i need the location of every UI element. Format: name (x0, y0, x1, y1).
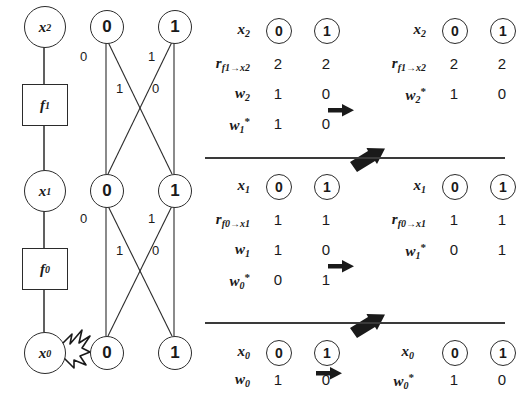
table-x1-left-cell-2-0: 0 (265, 272, 291, 287)
hdr-txt: x (414, 177, 422, 193)
up-left-arrow-icon-lower (350, 314, 385, 338)
trellis-node-bottom-0-label: 0 (102, 343, 111, 363)
row-txt: w (405, 243, 415, 259)
row-txt: w (229, 273, 239, 289)
table-x2-left-cell-1-1: 0 (313, 86, 339, 101)
table-x2-left-cell-0-0: 2 (265, 56, 291, 71)
hdr-txt: x (238, 343, 246, 359)
table-x2-left-col-header-1[interactable]: 1 (314, 18, 340, 44)
table-x1-left-cell-1-1: 0 (313, 242, 339, 257)
table-x1-right-row-1-label: w1* (354, 242, 426, 261)
factor-node-f0-sub: 0 (45, 264, 50, 275)
table-x2-right-cell-1-0: 1 (441, 86, 467, 101)
table-x0-left-col-header-1[interactable]: 1 (314, 340, 340, 366)
right-arrow-icon-x2 (328, 104, 354, 117)
table-x2-right-header-label: x2 (356, 22, 426, 39)
table-x2-left-row-2-label: w1* (178, 116, 250, 135)
table-divider-lower (205, 322, 505, 324)
table-x0-right-header-label: x0 (344, 344, 414, 361)
row-sub: f1→x2 (398, 62, 426, 73)
trellis-node-bottom-0[interactable]: 0 (90, 336, 124, 370)
variable-node-x0-label: x (39, 345, 47, 362)
trellis-node-top-0[interactable]: 0 (90, 10, 124, 44)
hdr-txt: x (238, 21, 246, 37)
table-x1-left-cell-1-0: 1 (265, 242, 291, 257)
trellis-node-top-1-label: 1 (170, 17, 179, 37)
col-hdr-1-label: 1 (499, 345, 507, 361)
table-x0-right-col-header-1[interactable]: 1 (490, 340, 516, 366)
table-x1-right-col-header-0[interactable]: 0 (442, 174, 468, 200)
table-x1-right-cell-1-1: 1 (489, 242, 515, 257)
row-sup: * (245, 271, 251, 283)
table-x1-right-col-header-1[interactable]: 1 (490, 174, 516, 200)
col-hdr-1-label: 1 (323, 23, 331, 39)
table-x2-right-row-0-label: rf1→x2 (354, 56, 426, 73)
row-txt: w (405, 87, 415, 103)
hdr-sub: 2 (421, 28, 426, 39)
table-x0-left-header-label: x0 (180, 344, 250, 361)
col-hdr-0-label: 0 (451, 345, 459, 361)
table-x2-right-col-header-1[interactable]: 1 (490, 18, 516, 44)
table-x1-left-cell-0-1: 1 (313, 212, 339, 227)
hdr-sub: 1 (421, 184, 426, 195)
variable-node-x0[interactable]: x0 (24, 332, 66, 374)
table-x1-right-header-label: x1 (356, 178, 426, 195)
table-x2-right-cell-1-1: 0 (489, 86, 515, 101)
row-txt: w (229, 117, 239, 133)
edge-label-upper-right-vertical: 0 (152, 82, 159, 95)
table-x2-right-col-header-0[interactable]: 0 (442, 18, 468, 44)
table-x1-right-cell-0-1: 1 (489, 212, 515, 227)
table-x2-left-cell-1-0: 1 (265, 86, 291, 101)
trellis-node-middle-1-label: 1 (170, 181, 179, 201)
col-hdr-0-label: 0 (451, 179, 459, 195)
variable-node-x2-sub: 2 (46, 22, 51, 33)
table-x2-left-cell-2-0: 1 (265, 116, 291, 131)
row-txt: w (235, 85, 245, 101)
col-hdr-0-label: 0 (275, 345, 283, 361)
table-x1-left-row-1-label: w1 (178, 242, 250, 259)
row-sup: * (409, 371, 415, 383)
edge-label-upper-right-diagonal: 1 (148, 50, 155, 63)
variable-node-x1-label: x (39, 183, 47, 200)
row-sup: * (421, 241, 427, 253)
table-x0-left-cell-0-0: 1 (265, 372, 291, 387)
edge-label-lower-right-diagonal: 1 (148, 212, 155, 225)
factor-node-f1[interactable]: f1 (22, 84, 68, 126)
row-sub: 1 (245, 248, 250, 259)
variable-node-x1[interactable]: x1 (24, 170, 66, 212)
factor-node-f0[interactable]: f0 (22, 248, 68, 290)
table-x1-left-cell-2-1: 1 (313, 272, 339, 287)
variable-node-x1-sub: 1 (46, 186, 51, 197)
edge-label-lower-left-diagonal: 1 (116, 244, 123, 257)
hdr-sub: 1 (245, 184, 250, 195)
row-txt: w (393, 373, 403, 389)
table-x1-left-col-header-0[interactable]: 0 (266, 174, 292, 200)
table-x1-right-cell-0-0: 1 (441, 212, 467, 227)
table-x2-left-cell-2-1: 0 (313, 116, 339, 131)
table-x1-right-cell-1-0: 0 (441, 242, 467, 257)
row-sup: * (421, 85, 427, 97)
col-hdr-1-label: 1 (323, 345, 331, 361)
table-x1-left-col-header-1[interactable]: 1 (314, 174, 340, 200)
table-x0-left-col-header-0[interactable]: 0 (266, 340, 292, 366)
variable-node-x2[interactable]: x2 (24, 6, 66, 48)
table-x0-right-col-header-0[interactable]: 0 (442, 340, 468, 366)
row-sub: 2 (245, 92, 250, 103)
trellis-node-middle-0[interactable]: 0 (90, 174, 124, 208)
table-x1-right-row-0-label: rf0→x1 (354, 212, 426, 229)
up-left-arrow-icon-upper (350, 148, 385, 172)
figure-canvas: x2 f1 x1 f0 x0 0 1 0 1 0 1 0 1 1 0 0 1 1… (0, 0, 531, 415)
table-x2-left-col-header-0[interactable]: 0 (266, 18, 292, 44)
hdr-sub: 0 (245, 350, 250, 361)
variable-node-x0-sub: 0 (46, 348, 51, 359)
table-x2-right-cell-0-1: 2 (489, 56, 515, 71)
table-divider-upper (205, 157, 505, 159)
hdr-txt: x (414, 21, 422, 37)
edge-label-upper-left-diagonal: 1 (116, 82, 123, 95)
edge-label-lower-left-vertical: 0 (80, 212, 87, 225)
row-sup: * (245, 115, 251, 127)
col-hdr-1-label: 1 (499, 179, 507, 195)
factor-node-f1-sub: 1 (45, 100, 50, 111)
table-x0-right-cell-0-0: 1 (441, 372, 467, 387)
hdr-sub: 0 (409, 350, 414, 361)
